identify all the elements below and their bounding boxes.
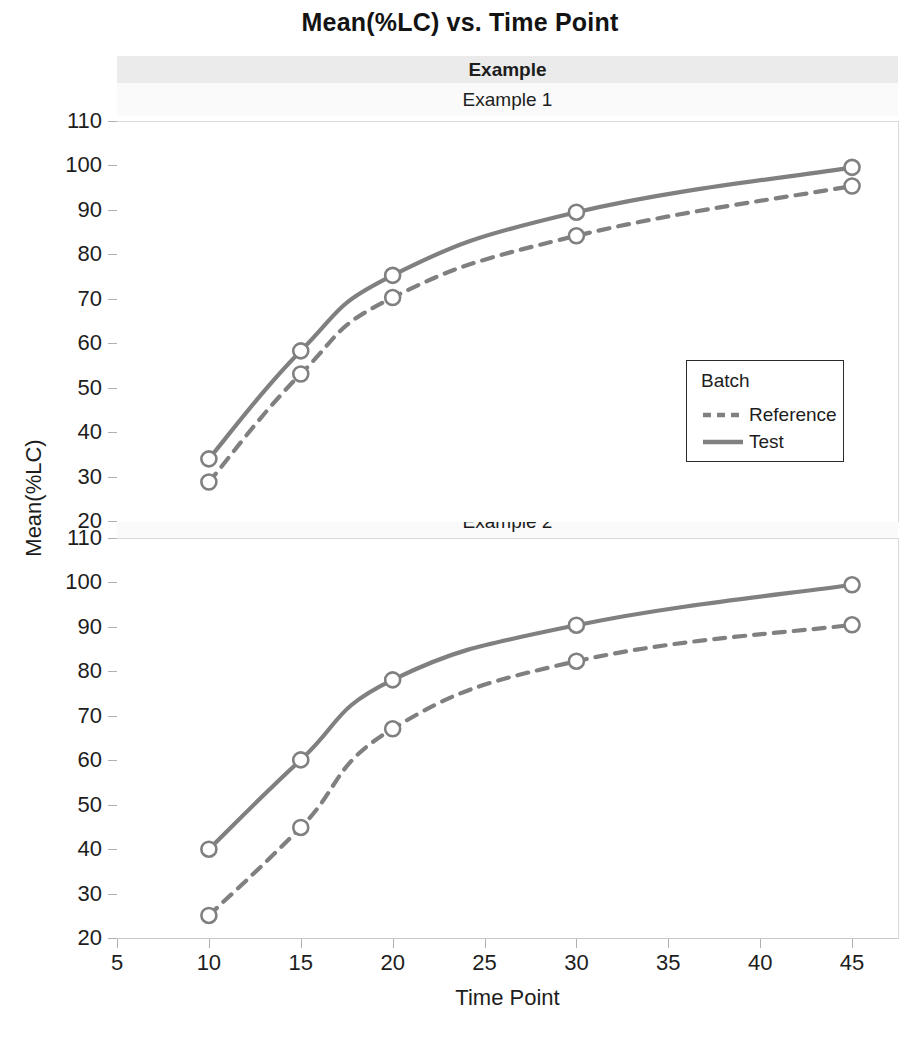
facet-strip-header-label: Example	[468, 59, 546, 81]
x-axis-line	[117, 938, 898, 939]
x-axis-tick-mark	[668, 939, 669, 948]
y-axis-tick-label: 100	[38, 154, 102, 176]
x-axis-tick-mark	[760, 939, 761, 948]
plot-panel-example-2	[117, 538, 899, 939]
y-axis-title: Mean(%LC)	[21, 378, 47, 618]
legend-title: Batch	[701, 370, 843, 392]
y-axis-tick-mark	[108, 849, 117, 850]
x-axis-tick-mark	[576, 939, 577, 948]
x-axis-tick-mark	[393, 939, 394, 948]
chart-figure: Mean(%LC) vs. Time Point Example Example…	[0, 0, 920, 1044]
x-axis-tick-mark	[485, 939, 486, 948]
legend-label-test: Test	[749, 431, 784, 453]
y-axis-tick-mark	[108, 716, 117, 717]
y-axis-tick-label: 30	[38, 466, 102, 488]
y-axis-tick-label: 70	[38, 288, 102, 310]
y-axis-tick-mark	[108, 671, 117, 672]
y-axis-tick-mark	[108, 477, 117, 478]
x-axis-tick-label: 35	[638, 952, 698, 974]
legend-swatch-test-icon	[701, 435, 745, 449]
y-axis-tick-mark	[108, 165, 117, 166]
facet-strip-panel-1: Example 1	[117, 83, 898, 116]
y-axis-tick-label: 80	[38, 660, 102, 682]
legend-label-reference: Reference	[749, 404, 837, 426]
y-axis-tick-mark	[108, 805, 117, 806]
y-axis-tick-label: 20	[38, 927, 102, 949]
y-axis-tick-mark	[108, 254, 117, 255]
x-axis-tick-label: 45	[822, 952, 882, 974]
plot-area-example-2	[117, 539, 898, 939]
x-axis-tick-mark	[209, 939, 210, 948]
y-axis-tick-mark	[108, 299, 117, 300]
y-axis-tick-label: 110	[38, 527, 102, 549]
y-axis-tick-label: 90	[38, 616, 102, 638]
chart-title: Mean(%LC) vs. Time Point	[0, 8, 920, 37]
x-axis-tick-label: 25	[455, 952, 515, 974]
x-axis-tick-label: 40	[730, 952, 790, 974]
y-axis-tick-mark	[108, 210, 117, 211]
y-axis-tick-mark	[108, 582, 117, 583]
y-axis-tick-label: 50	[38, 377, 102, 399]
legend: Batch Reference Test	[686, 360, 844, 462]
y-axis-tick-mark	[108, 938, 117, 939]
x-axis-tick-label: 10	[179, 952, 239, 974]
y-axis-tick-label: 80	[38, 243, 102, 265]
facet-strip-panel-1-label: Example 1	[463, 89, 553, 111]
y-axis-tick-label: 50	[38, 794, 102, 816]
y-axis-tick-label: 60	[38, 749, 102, 771]
y-axis-tick-mark	[108, 627, 117, 628]
x-axis-tick-label: 15	[271, 952, 331, 974]
y-axis-tick-mark	[108, 538, 117, 539]
y-axis-tick-label: 40	[38, 838, 102, 860]
legend-swatch-reference-icon	[701, 408, 745, 422]
x-axis-tick-label: 30	[546, 952, 606, 974]
y-axis-tick-label: 30	[38, 883, 102, 905]
x-axis-title: Time Point	[117, 985, 898, 1011]
x-axis-tick-label: 5	[87, 952, 147, 974]
y-axis-tick-label: 60	[38, 332, 102, 354]
x-axis-tick-mark	[301, 939, 302, 948]
y-axis-tick-mark	[108, 121, 117, 122]
y-axis-tick-mark	[108, 343, 117, 344]
facet-strip-header: Example	[117, 56, 898, 83]
y-axis-tick-label: 40	[38, 421, 102, 443]
legend-item-test[interactable]: Test	[701, 428, 843, 455]
x-axis-tick-mark	[852, 939, 853, 948]
y-axis-tick-mark	[108, 432, 117, 433]
y-axis-tick-label: 110	[38, 110, 102, 132]
y-axis-tick-label: 100	[38, 571, 102, 593]
y-axis-tick-mark	[108, 521, 117, 522]
y-axis-tick-mark	[108, 760, 117, 761]
y-axis-tick-mark	[108, 388, 117, 389]
y-axis-tick-label: 90	[38, 199, 102, 221]
legend-item-reference[interactable]: Reference	[701, 401, 843, 428]
x-axis-tick-mark	[117, 939, 118, 948]
x-axis-tick-label: 20	[363, 952, 423, 974]
plot-area-example-1	[117, 122, 898, 522]
y-axis-tick-mark	[108, 894, 117, 895]
y-axis-tick-label: 70	[38, 705, 102, 727]
